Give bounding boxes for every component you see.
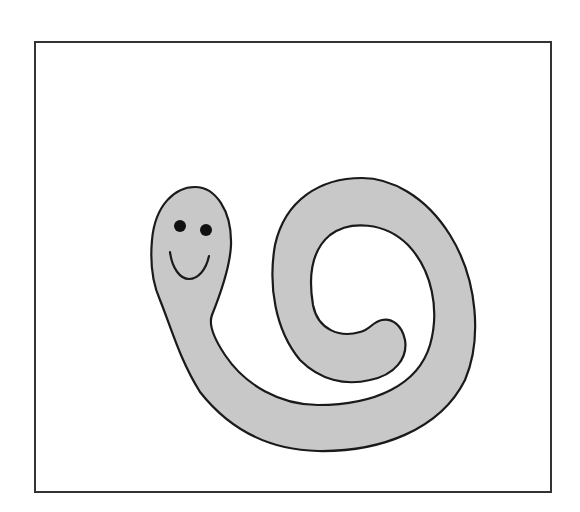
left-eye-icon: [174, 220, 186, 232]
worm-illustration: [0, 0, 580, 512]
right-eye-icon: [200, 224, 212, 236]
